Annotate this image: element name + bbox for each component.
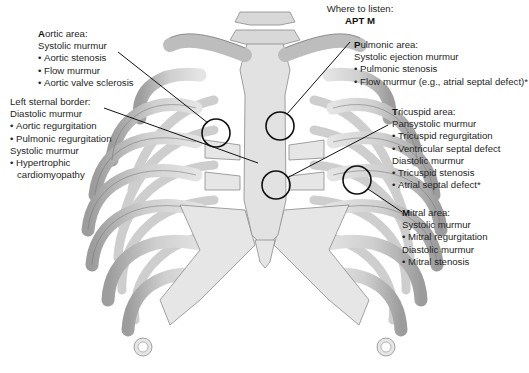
label-line: Diastolic murmur xyxy=(402,244,487,256)
label-line: Pansystolic murmur xyxy=(392,118,500,130)
auscultation-diagram: Where to listen: APT M Aortic area: Syst… xyxy=(0,0,529,373)
label-line: Systolic murmur xyxy=(402,219,487,231)
label-line: Diastolic murmur xyxy=(392,155,500,167)
area-initial: M xyxy=(402,207,410,218)
mnemonic-text: APT M xyxy=(300,15,420,27)
label-bullet: Aortic stenosis xyxy=(38,52,134,64)
label-bullet: Ventricular septal defect xyxy=(392,143,500,155)
label-bullet: Flow murmur xyxy=(38,65,134,77)
title-block: Where to listen: APT M xyxy=(300,3,420,27)
label-bullet: Aortic regurgitation xyxy=(10,120,112,132)
pulmonic-area-label: Pulmonic area: Systolic ejection murmur … xyxy=(354,39,528,88)
mitral-area-label: Mitral area: Systolic murmur Mitral regu… xyxy=(402,207,487,268)
area-heading: ulmonic area: xyxy=(360,39,418,50)
label-bullet: Tricuspid regurgitation xyxy=(392,130,500,142)
label-bullet: Flow murmur (e.g., atrial septal defect)… xyxy=(354,76,528,88)
label-bullet: Hypertrophic xyxy=(10,157,112,169)
area-heading: ortic area: xyxy=(45,28,88,39)
label-line: Systolic ejection murmur xyxy=(354,51,528,63)
aortic-area-label: Aortic area: Systolic murmur Aortic sten… xyxy=(38,28,134,89)
label-bullet: Atrial septal defect* xyxy=(392,179,500,191)
sternum xyxy=(240,40,290,248)
tricuspid-area-label: Tricuspid area: Pansystolic murmur Tricu… xyxy=(392,106,500,191)
label-bullet: Aortic valve sclerosis xyxy=(38,77,134,89)
label-line: Diastolic murmur xyxy=(10,108,112,120)
label-line: Systolic murmur xyxy=(38,40,134,52)
area-heading: itral area: xyxy=(410,207,450,218)
label-line: Systolic murmur xyxy=(10,145,112,157)
left-sternal-border-label: Left sternal border: Diastolic murmur Ao… xyxy=(10,96,112,181)
label-bullet: Mitral regurgitation xyxy=(402,231,487,243)
title-text: Where to listen: xyxy=(300,3,420,15)
label-bullet: Pulmonic regurgitation xyxy=(10,133,112,145)
area-heading: ricuspid area: xyxy=(398,106,456,117)
label-bullet: Mitral stenosis xyxy=(402,256,487,268)
area-initial: A xyxy=(38,28,45,39)
area-heading: Left sternal border: xyxy=(10,96,112,108)
label-bullet: Tricuspid stenosis xyxy=(392,167,500,179)
label-line: cardiomyopathy xyxy=(10,169,112,181)
label-bullet: Pulmonic stenosis xyxy=(354,63,528,75)
